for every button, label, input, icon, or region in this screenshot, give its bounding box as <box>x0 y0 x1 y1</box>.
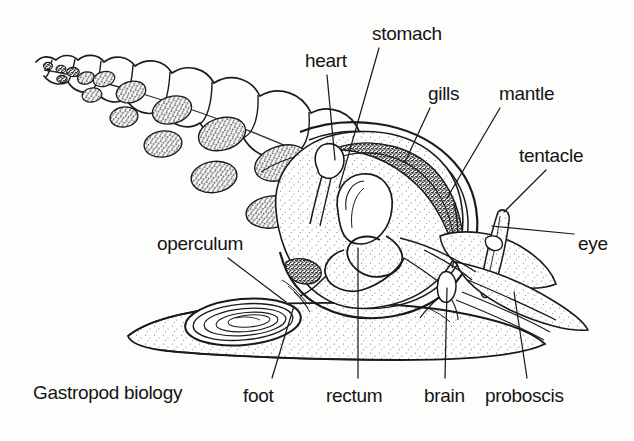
label-gills: gills <box>428 84 459 103</box>
label-stomach: stomach <box>372 24 442 43</box>
label-proboscis: proboscis <box>485 386 564 405</box>
eye <box>485 236 502 251</box>
label-operculum: operculum <box>157 234 243 253</box>
label-eye: eye <box>578 234 608 253</box>
label-brain: brain <box>424 386 465 405</box>
figure-canvas: stomach heart gills mantle tentacle eye … <box>0 0 634 441</box>
label-rectum: rectum <box>326 386 382 405</box>
shell-visceral-blobs <box>44 62 312 231</box>
leader-tentacle <box>504 170 546 212</box>
visceral-mass <box>276 131 464 312</box>
leader-operculum <box>228 258 286 302</box>
label-tentacle: tentacle <box>519 146 583 165</box>
label-foot: foot <box>243 386 274 405</box>
figure-caption: Gastropod biology <box>33 383 182 402</box>
label-mantle: mantle <box>499 84 554 103</box>
label-heart: heart <box>305 51 347 70</box>
leader-mantle <box>447 108 500 198</box>
